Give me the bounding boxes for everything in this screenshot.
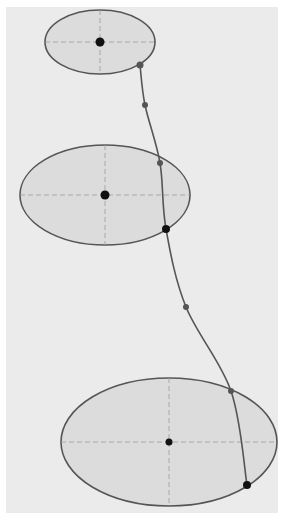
ellipse-trajectory-diagram — [0, 0, 299, 522]
trajectory-dot-small — [142, 102, 148, 108]
ellipse-center-dot — [166, 439, 173, 446]
trajectory-dot-small — [157, 160, 163, 166]
ellipse-center-dot — [96, 38, 105, 47]
ellipse-center-dot — [101, 191, 110, 200]
trajectory-dot-small — [228, 388, 234, 394]
trajectory-dot-large — [243, 481, 251, 489]
trajectory-dot-large — [162, 225, 170, 233]
trajectory-dot-small — [183, 304, 189, 310]
trajectory-dot-small — [137, 62, 144, 69]
